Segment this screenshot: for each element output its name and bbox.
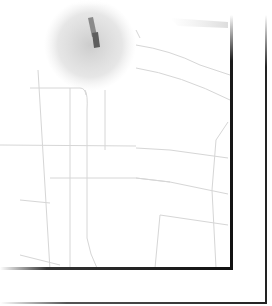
outer-frame-border-bottom <box>0 302 267 304</box>
inner-frame-border-bottom <box>0 267 233 270</box>
outer-frame-border-right <box>265 15 267 304</box>
inner-frame-border-right <box>230 15 233 270</box>
